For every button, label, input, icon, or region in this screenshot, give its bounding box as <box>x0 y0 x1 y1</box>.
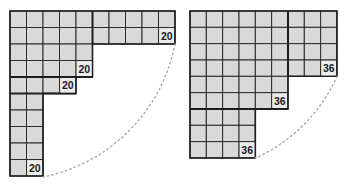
grid-cell <box>190 109 206 125</box>
grid-cell <box>27 143 44 160</box>
grid-cell <box>27 94 44 111</box>
grid-cell <box>190 27 206 43</box>
grid-cell <box>223 109 239 125</box>
grid-cell <box>255 27 271 43</box>
grid-cell <box>27 11 44 28</box>
grid-cell <box>206 142 222 158</box>
left-figure-20-blocks: 20202020 <box>10 11 175 177</box>
right-figure-36-blocks: 363636 <box>190 11 337 158</box>
grid-cell <box>304 60 320 76</box>
grid-cell <box>190 11 206 27</box>
grid-cell <box>288 27 304 43</box>
grid-cell <box>126 11 143 28</box>
grid-cell <box>206 109 222 125</box>
grid-cell <box>10 28 27 45</box>
grid-cell <box>206 11 222 27</box>
grid-cell <box>109 28 126 45</box>
grid-cell <box>76 44 93 61</box>
grid-cell <box>142 11 159 28</box>
grid-cell <box>109 11 126 28</box>
grid-cell <box>239 93 255 109</box>
grid-cell <box>27 110 44 127</box>
grid-cell <box>93 11 110 28</box>
grid-cell <box>223 76 239 92</box>
grid-cell <box>190 60 206 76</box>
block-count-label: 36 <box>323 62 335 74</box>
grid-cell <box>272 27 288 43</box>
grid-cell <box>223 60 239 76</box>
block-count-label: 20 <box>161 30 173 42</box>
grid-cell <box>10 143 27 160</box>
grid-cell <box>60 61 77 78</box>
grid-cell <box>239 11 255 27</box>
grid-cell <box>239 76 255 92</box>
grid-cell <box>304 11 320 27</box>
grid-cell <box>76 28 93 45</box>
block-count-label: 20 <box>78 63 90 75</box>
grid-cell <box>304 44 320 60</box>
grid-cell <box>321 44 337 60</box>
grid-cell <box>223 44 239 60</box>
grid-cell <box>142 28 159 45</box>
grid-cell <box>321 27 337 43</box>
grid-cell <box>223 93 239 109</box>
grid-cell <box>255 11 271 27</box>
grid-cell <box>239 125 255 141</box>
grid-cell <box>321 11 337 27</box>
grid-cell <box>10 127 27 144</box>
grid-cell <box>60 44 77 61</box>
grid-cell <box>10 110 27 127</box>
grid-cell <box>304 27 320 43</box>
grid-cell <box>255 44 271 60</box>
grid-cell <box>76 11 93 28</box>
grid-cell <box>43 77 60 94</box>
grid-cell <box>10 11 27 28</box>
grid-cell <box>93 28 110 45</box>
gnomon-diagram: 20202020 363636 <box>0 0 349 188</box>
block-count-label: 20 <box>29 162 41 174</box>
grid-cell <box>206 60 222 76</box>
grid-cell <box>27 44 44 61</box>
grid-cell <box>255 93 271 109</box>
block-count-label: 20 <box>62 79 74 91</box>
grid-cell <box>288 60 304 76</box>
grid-cell <box>190 44 206 60</box>
grid-cell <box>10 77 27 94</box>
grid-cell <box>190 93 206 109</box>
grid-cell <box>10 61 27 78</box>
grid-cell <box>223 27 239 43</box>
grid-cell <box>239 109 255 125</box>
grid-cell <box>27 77 44 94</box>
grid-cell <box>126 28 143 45</box>
grid-cell <box>27 61 44 78</box>
grid-cell <box>10 44 27 61</box>
grid-cell <box>43 44 60 61</box>
grid-cell <box>206 44 222 60</box>
grid-cell <box>239 27 255 43</box>
block-count-label: 36 <box>274 95 286 107</box>
block-count-label: 36 <box>241 144 253 156</box>
grid-cell <box>272 44 288 60</box>
grid-cell <box>288 11 304 27</box>
grid-cell <box>60 28 77 45</box>
grid-cell <box>159 11 176 28</box>
grid-cell <box>10 94 27 111</box>
grid-cell <box>43 28 60 45</box>
grid-cell <box>255 60 271 76</box>
grid-cell <box>206 93 222 109</box>
grid-cell <box>190 76 206 92</box>
grid-cell <box>255 76 271 92</box>
grid-cell <box>27 28 44 45</box>
grid-cell <box>206 27 222 43</box>
grid-cell <box>190 125 206 141</box>
grid-cell <box>43 11 60 28</box>
grid-cell <box>27 127 44 144</box>
grid-cell <box>288 44 304 60</box>
grid-cell <box>10 160 27 177</box>
grid-cell <box>190 142 206 158</box>
grid-cell <box>272 60 288 76</box>
grid-cell <box>272 76 288 92</box>
grid-cell <box>239 60 255 76</box>
grid-cell <box>272 11 288 27</box>
grid-cell <box>43 61 60 78</box>
